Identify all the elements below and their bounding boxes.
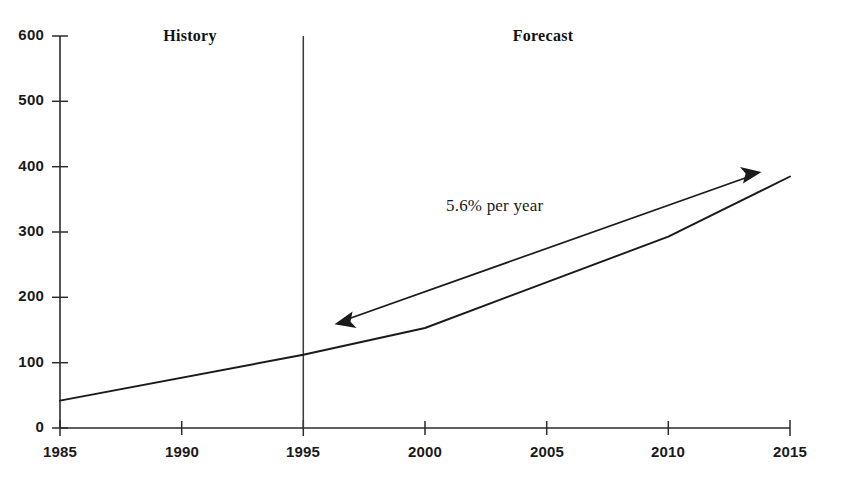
- x-tick-label-1985: 1985: [22, 443, 98, 460]
- x-tick-label-1990: 1990: [144, 443, 220, 460]
- x-tick-label-1995: 1995: [265, 443, 341, 460]
- chart-plot-area: [0, 0, 842, 495]
- growth-arrow-head-right: [740, 167, 762, 184]
- y-tick-label-0: 0: [10, 418, 44, 435]
- y-tick-label-100: 100: [10, 353, 44, 370]
- y-tick-label-600: 600: [10, 26, 44, 43]
- growth-arrow-head-left: [335, 312, 357, 329]
- x-tick-label-2015: 2015: [752, 443, 828, 460]
- growth-arrow-group: [335, 167, 762, 328]
- y-tick-label-300: 300: [10, 222, 44, 239]
- chart-container: 0 100 200 300 400 500 600 1985 1990 1995…: [0, 0, 842, 495]
- growth-rate-label: 5.6% per year: [446, 196, 626, 216]
- x-tick-label-2005: 2005: [509, 443, 585, 460]
- data-series-line: [60, 177, 790, 401]
- history-label: History: [135, 27, 245, 45]
- x-tick-label-2000: 2000: [387, 443, 463, 460]
- y-tick-label-500: 500: [10, 91, 44, 108]
- axes-group: [60, 36, 790, 428]
- x-tick-label-2010: 2010: [630, 443, 706, 460]
- y-tick-label-200: 200: [10, 287, 44, 304]
- forecast-label: Forecast: [478, 27, 608, 45]
- y-tick-label-400: 400: [10, 157, 44, 174]
